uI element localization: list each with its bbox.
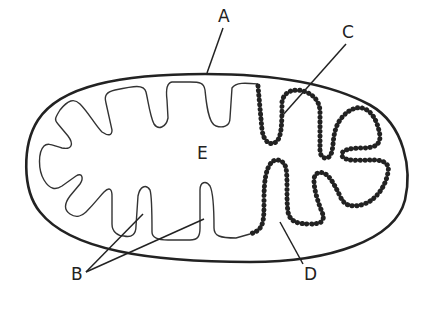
mitochondrion-diagram: [0, 0, 427, 318]
pointer-d: [280, 222, 303, 264]
label-b: B: [71, 266, 83, 283]
pointer-a: [207, 28, 223, 73]
label-a: A: [218, 8, 230, 25]
label-d: D: [304, 266, 317, 283]
particle-membrane: [250, 86, 388, 234]
pointer-b1: [86, 214, 143, 272]
label-e: E: [197, 145, 208, 162]
pointer-b2: [86, 219, 204, 272]
label-c: C: [342, 24, 354, 41]
inner-membrane: [40, 82, 259, 240]
